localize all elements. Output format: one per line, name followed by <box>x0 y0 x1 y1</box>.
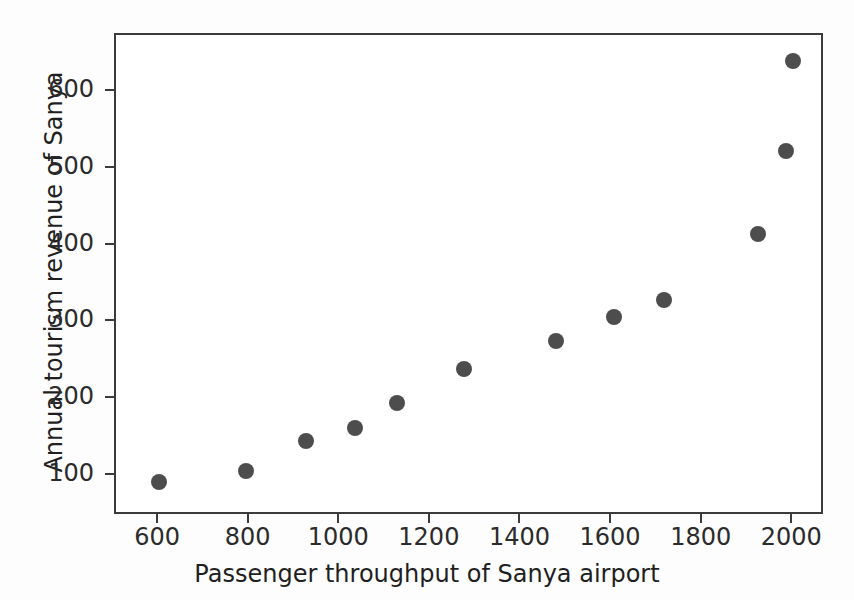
y-axis-tick <box>105 243 114 245</box>
y-axis-tick-label: 400 <box>48 231 94 255</box>
y-axis-tick-label: 600 <box>48 77 94 101</box>
x-axis-tick-label: 1200 <box>398 525 459 549</box>
x-axis-tick <box>790 514 792 523</box>
x-axis-tick-label: 2000 <box>761 525 822 549</box>
x-axis-tick <box>156 514 158 523</box>
y-axis-tick-label: 200 <box>48 384 94 408</box>
data-point <box>298 433 314 449</box>
x-axis-tick <box>700 514 702 523</box>
y-axis-tick-label: 300 <box>48 307 94 331</box>
data-point <box>548 333 564 349</box>
plot-area <box>114 33 823 514</box>
x-axis-tick-label: 1000 <box>308 525 369 549</box>
y-axis-tick <box>105 396 114 398</box>
data-points-layer <box>116 35 821 512</box>
data-point <box>656 292 672 308</box>
x-axis-tick-label: 800 <box>225 525 271 549</box>
data-point <box>389 395 405 411</box>
x-axis-tick-label: 1400 <box>489 525 550 549</box>
y-axis-tick <box>105 319 114 321</box>
data-point <box>456 361 472 377</box>
data-point <box>750 226 766 242</box>
x-axis-tick <box>609 514 611 523</box>
x-axis-tick-label: 1600 <box>580 525 641 549</box>
x-axis-tick <box>247 514 249 523</box>
data-point <box>778 143 794 159</box>
data-point <box>238 463 254 479</box>
x-axis-title: Passenger throughput of Sanya airport <box>0 560 854 588</box>
y-axis-tick <box>105 89 114 91</box>
x-axis-tick <box>337 514 339 523</box>
x-axis-tick <box>428 514 430 523</box>
y-axis-tick-label: 100 <box>48 461 94 485</box>
x-axis-tick-label: 600 <box>134 525 180 549</box>
y-axis-tick <box>105 166 114 168</box>
y-axis-tick-label: 500 <box>48 154 94 178</box>
x-axis-tick-label: 1800 <box>670 525 731 549</box>
data-point <box>347 420 363 436</box>
data-point <box>785 53 801 69</box>
data-point <box>606 309 622 325</box>
data-point <box>151 474 167 490</box>
scatter-plot-figure: Annual tourism revenue of Sanya Passenge… <box>0 0 854 600</box>
x-axis-tick <box>518 514 520 523</box>
y-axis-tick <box>105 473 114 475</box>
